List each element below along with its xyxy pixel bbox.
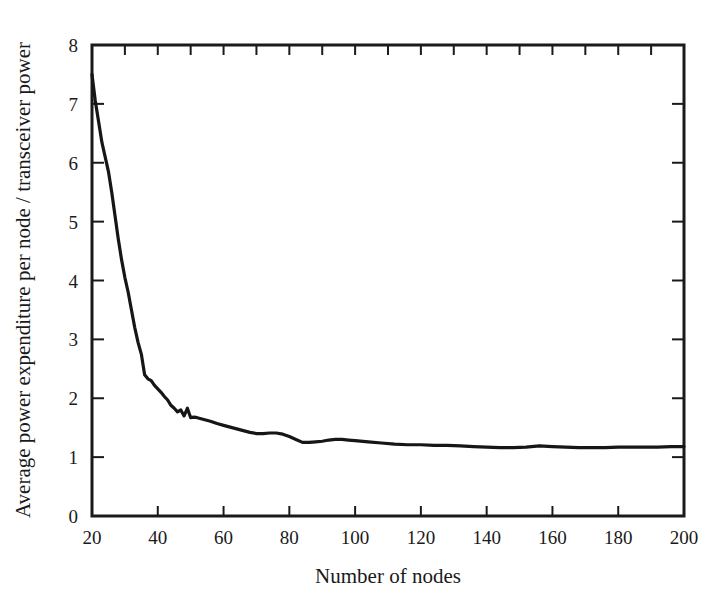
x-tick-label-100: 100: [341, 527, 370, 548]
figure-background: [0, 0, 724, 601]
y-tick-label-1: 1: [69, 447, 79, 468]
figure-page: 20406080100120140160180200 012345678 Num…: [0, 0, 724, 601]
y-tick-label-7: 7: [69, 94, 79, 115]
y-tick-label-0: 0: [69, 506, 79, 527]
y-tick-label-3: 3: [69, 329, 79, 350]
y-tick-label-2: 2: [69, 388, 79, 409]
x-tick-label-20: 20: [83, 527, 102, 548]
x-tick-label-120: 120: [407, 527, 436, 548]
y-axis-tick-labels: 012345678: [69, 35, 79, 527]
x-axis-title: Number of nodes: [315, 564, 461, 588]
y-tick-label-5: 5: [69, 212, 79, 233]
y-axis-title: Average power expenditure per node / tra…: [11, 42, 35, 518]
y-tick-label-4: 4: [69, 271, 79, 292]
y-tick-label-6: 6: [69, 153, 79, 174]
x-tick-label-180: 180: [604, 527, 633, 548]
y-tick-label-8: 8: [69, 35, 79, 56]
x-tick-label-140: 140: [472, 527, 501, 548]
x-tick-label-40: 40: [148, 527, 167, 548]
line-chart-figure: 20406080100120140160180200 012345678 Num…: [0, 0, 724, 601]
x-tick-label-80: 80: [280, 527, 299, 548]
x-tick-label-160: 160: [538, 527, 567, 548]
x-tick-label-60: 60: [214, 527, 233, 548]
x-tick-label-200: 200: [670, 527, 699, 548]
